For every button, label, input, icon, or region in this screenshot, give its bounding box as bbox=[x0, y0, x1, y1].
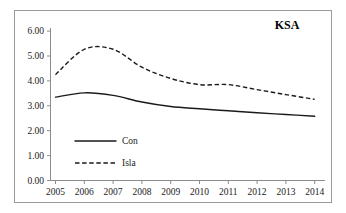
y-tick-label: 6.00 bbox=[27, 26, 44, 36]
x-tick-label: 2014 bbox=[305, 187, 324, 197]
series-line-isla bbox=[56, 47, 315, 100]
x-tick-label: 2007 bbox=[104, 187, 123, 197]
x-tick-label: 2013 bbox=[276, 187, 295, 197]
series-line-con bbox=[56, 93, 315, 116]
legend-label-con: Con bbox=[122, 136, 138, 146]
legend-item-isla: Isla bbox=[75, 158, 137, 168]
x-tick-label: 2011 bbox=[219, 187, 238, 197]
x-tick-label: 2005 bbox=[46, 187, 65, 197]
legend-item-con: Con bbox=[75, 136, 138, 146]
legend-label-isla: Isla bbox=[122, 158, 137, 168]
y-tick-label: 4.00 bbox=[27, 76, 44, 86]
x-tick-label: 2012 bbox=[248, 187, 267, 197]
chart-legend: Con Isla bbox=[75, 136, 138, 168]
y-tick-label: 2.00 bbox=[27, 126, 44, 136]
y-axis-ticks: 0.00 1.00 2.00 3.00 4.00 5.00 6.00 bbox=[27, 26, 50, 185]
chart-figure: 0.00 1.00 2.00 3.00 4.00 5.00 6.00 2005 … bbox=[0, 0, 346, 213]
x-axis-ticks: 2005 2006 2007 2008 2009 2010 2011 2012 … bbox=[46, 181, 324, 198]
y-tick-label: 5.00 bbox=[27, 51, 44, 61]
x-tick-label: 2010 bbox=[190, 187, 209, 197]
x-tick-label: 2006 bbox=[75, 187, 94, 197]
y-tick-label: 1.00 bbox=[27, 151, 44, 161]
x-tick-label: 2008 bbox=[132, 187, 151, 197]
x-tick-label: 2009 bbox=[161, 187, 180, 197]
page-title: KSA bbox=[275, 18, 300, 32]
y-tick-label: 0.00 bbox=[27, 176, 44, 186]
line-chart: 0.00 1.00 2.00 3.00 4.00 5.00 6.00 2005 … bbox=[0, 0, 346, 213]
y-tick-label: 3.00 bbox=[27, 101, 44, 111]
